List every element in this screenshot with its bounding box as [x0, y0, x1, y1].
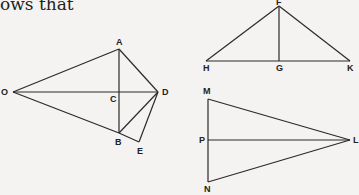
point-label-E: E [137, 146, 143, 156]
segment-OB [13, 92, 119, 133]
point-label-D: D [162, 87, 169, 97]
kite-figure: AOCDBE [1, 37, 169, 156]
segment-ED [139, 92, 158, 142]
point-label-F: F [276, 0, 282, 7]
point-label-K: K [347, 63, 354, 73]
point-label-C: C [110, 94, 117, 104]
point-label-L: L [353, 135, 359, 145]
segment-AD [119, 49, 158, 92]
segment-ML [208, 99, 350, 140]
segment-NL [208, 140, 350, 182]
point-label-P: P [199, 135, 205, 145]
segment-OA [13, 49, 119, 92]
point-label-O: O [1, 87, 8, 97]
segment-BD [119, 92, 158, 133]
segment-BE [119, 133, 139, 142]
point-label-M: M [203, 86, 211, 96]
point-label-H: H [203, 63, 210, 73]
point-label-A: A [116, 37, 123, 47]
segment-FK [279, 6, 350, 61]
triangle-fhk: FHGK [203, 0, 354, 73]
point-label-G: G [276, 63, 283, 73]
triangle-mnl: MPNL [199, 86, 359, 194]
point-label-N: N [204, 184, 211, 194]
point-label-B: B [115, 137, 122, 147]
segment-FH [206, 6, 279, 61]
geometry-diagram: AOCDBEFHGKMPNL [0, 0, 359, 195]
